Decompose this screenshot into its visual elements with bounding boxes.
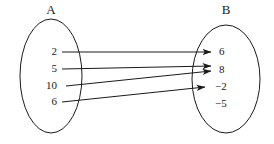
set-b-element-4: −5 — [215, 97, 227, 109]
set-b-element-1: 6 — [219, 45, 225, 57]
set-a-element-3: 10 — [46, 79, 58, 91]
set-b-element-2: 8 — [219, 63, 225, 75]
set-a-element-1: 2 — [52, 45, 58, 57]
set-a-label: A — [46, 2, 56, 17]
set-a-element-4: 6 — [52, 95, 58, 107]
set-mapping-diagram: A B 2 5 10 6 6 8 −2 −5 — [0, 0, 274, 144]
set-b-label: B — [222, 2, 231, 17]
arrow-5-to-8 — [62, 66, 211, 69]
arrow-6-to-minus2 — [62, 87, 205, 102]
set-a-ellipse — [20, 19, 82, 133]
set-a-element-2: 5 — [52, 62, 58, 74]
mapping-svg: A B 2 5 10 6 6 8 −2 −5 — [0, 0, 274, 144]
arrow-10-to-8 — [66, 71, 211, 86]
set-b-element-3: −2 — [215, 80, 227, 92]
